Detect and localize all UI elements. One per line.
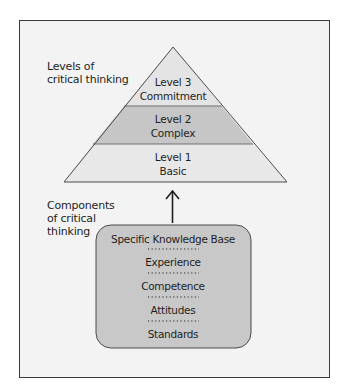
components-heading: Components of critical thinking	[47, 199, 115, 238]
critical-thinking-diagram: Level 3 Commitment Level 2 Complex Level…	[0, 0, 347, 387]
component-experience: Experience	[145, 256, 201, 268]
components-heading-line-1: Components	[47, 199, 115, 212]
component-standards: Standards	[148, 328, 199, 340]
levels-heading-line-1: Levels of	[47, 60, 129, 73]
levels-heading-line-2: critical thinking	[47, 73, 129, 86]
level-1-name: Basic	[160, 165, 187, 177]
level-2-name: Complex	[151, 127, 196, 139]
level-3-name: Commitment	[140, 90, 207, 102]
component-knowledge-base: Specific Knowledge Base	[111, 233, 235, 245]
component-attitudes: Attitudes	[151, 304, 196, 316]
components-box: Specific Knowledge Base Experience Compe…	[96, 225, 251, 348]
level-2-number: Level 2	[155, 113, 191, 125]
level-1-number: Level 1	[155, 151, 191, 163]
level-3-number: Level 3	[155, 76, 191, 88]
arrow-up-icon	[166, 191, 179, 223]
component-competence: Competence	[141, 280, 205, 292]
levels-heading: Levels of critical thinking	[47, 60, 129, 86]
components-heading-line-3: thinking	[47, 225, 115, 238]
components-heading-line-2: of critical	[47, 212, 115, 225]
